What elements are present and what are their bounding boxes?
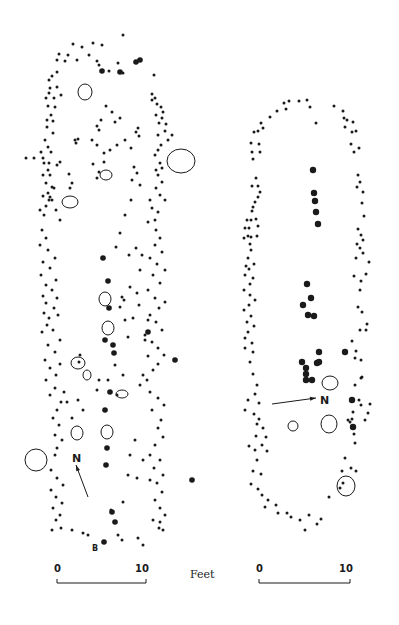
postmold — [48, 199, 51, 202]
postmold — [52, 417, 55, 420]
postmold — [361, 311, 364, 314]
postmold — [346, 119, 349, 122]
postmold — [254, 201, 257, 204]
postmold — [269, 116, 272, 119]
postmold — [156, 103, 159, 106]
postmold — [161, 491, 164, 494]
large-postmold — [350, 424, 356, 430]
pit-outline — [25, 449, 47, 471]
postmold — [41, 229, 44, 232]
postmold — [162, 529, 165, 532]
postmold — [124, 139, 127, 142]
postmold — [46, 119, 49, 122]
postmold — [77, 399, 80, 402]
left-scale-bar: 0 10 — [54, 563, 149, 583]
postmold — [111, 111, 114, 114]
postmold — [98, 129, 101, 132]
postmold — [328, 496, 331, 499]
postmold — [50, 469, 53, 472]
large-postmold — [303, 365, 309, 371]
postmold — [53, 97, 56, 100]
postmold — [247, 399, 250, 402]
postmold — [161, 181, 164, 184]
postmold — [54, 454, 57, 457]
postmold — [56, 409, 59, 412]
postmold — [154, 244, 157, 247]
postmold — [122, 501, 125, 504]
postmold — [354, 442, 357, 445]
postmold — [53, 187, 56, 190]
postmold — [41, 331, 44, 334]
postmold — [266, 450, 269, 453]
large-postmold — [117, 69, 123, 75]
postmold — [247, 257, 250, 260]
postmold — [136, 292, 139, 295]
postmold — [253, 131, 256, 134]
large-postmold — [107, 389, 113, 395]
postmold — [55, 279, 58, 282]
postmold — [367, 412, 370, 415]
postmold — [258, 143, 261, 146]
postmold — [130, 147, 133, 150]
postmold — [161, 117, 164, 120]
large-postmold — [189, 477, 195, 483]
postmold — [256, 459, 259, 462]
postmold — [359, 289, 362, 292]
postmold — [139, 384, 142, 387]
postmold — [250, 483, 253, 486]
postmold — [350, 143, 353, 146]
postmold — [137, 537, 140, 540]
postmold — [44, 139, 47, 142]
postmold — [257, 488, 260, 491]
postmold — [133, 166, 136, 169]
postmold — [361, 202, 364, 205]
postmold — [339, 487, 342, 490]
postmold — [158, 122, 161, 125]
postmold — [40, 151, 43, 154]
postmold — [253, 263, 256, 266]
postmold — [115, 246, 118, 249]
postmold — [155, 114, 158, 117]
postmold — [59, 514, 62, 517]
postmold — [155, 321, 158, 324]
postmold — [48, 162, 51, 165]
postmold — [138, 304, 141, 307]
postmold — [164, 130, 167, 133]
left-marker-label: B — [92, 544, 98, 553]
left-north-arrow-icon: N — [72, 452, 88, 497]
postmold — [320, 518, 323, 521]
postmold — [256, 235, 259, 238]
postmold — [142, 374, 145, 377]
postmold — [262, 127, 265, 130]
postmold — [54, 257, 57, 260]
postmold — [248, 227, 251, 230]
pit-outline — [62, 196, 78, 208]
postmold — [261, 494, 264, 497]
postmold — [283, 102, 286, 105]
postmold — [103, 161, 106, 164]
postmold — [164, 199, 167, 202]
large-postmold — [145, 329, 151, 335]
postmold — [151, 99, 154, 102]
postmold — [355, 257, 358, 260]
postmold — [43, 162, 46, 165]
postmold — [243, 237, 246, 240]
postmold — [147, 221, 150, 224]
large-postmold — [311, 190, 317, 196]
postmold — [109, 149, 112, 152]
postmold — [117, 62, 120, 65]
postmold — [171, 134, 174, 137]
postmold — [156, 263, 159, 266]
large-postmold — [303, 377, 309, 383]
postmold — [142, 544, 145, 547]
postmold — [253, 325, 256, 328]
pit-outline — [337, 476, 355, 496]
postmold — [159, 507, 162, 510]
postmold — [157, 174, 160, 177]
postmold — [47, 192, 50, 195]
postmold — [72, 43, 75, 46]
right-north-label: N — [320, 394, 329, 407]
postmold — [355, 130, 358, 133]
postmold — [121, 539, 124, 542]
postmold — [60, 401, 63, 404]
